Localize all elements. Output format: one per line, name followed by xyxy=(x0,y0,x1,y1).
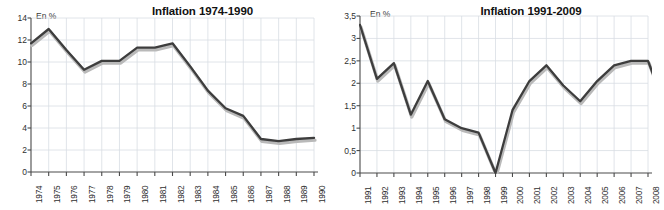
x-tick-label: 1993 xyxy=(398,187,407,204)
x-tick-label: 2005 xyxy=(601,187,610,204)
x-tick-label: 1991 xyxy=(364,187,373,204)
chart-canvas-left xyxy=(31,18,320,182)
x-tick-label: 1996 xyxy=(449,187,458,204)
x-tick-label: 2003 xyxy=(567,187,576,204)
x-tick-label: 1982 xyxy=(177,186,186,203)
x-tick-label: 1987 xyxy=(265,186,274,203)
x-tick-label: 2006 xyxy=(618,187,627,204)
x-tick-label: 1977 xyxy=(88,186,97,203)
data-line-shadow-left xyxy=(32,31,315,143)
x-tick-label: 2001 xyxy=(533,187,542,204)
gridlines-vertical xyxy=(49,18,314,172)
x-tick-label: 1984 xyxy=(212,186,221,203)
x-tick-label: 1995 xyxy=(432,187,441,204)
y-tick-label: 6 xyxy=(0,101,27,111)
y-tick-label: 14 xyxy=(0,13,27,23)
chart-canvas-right xyxy=(360,16,654,183)
y-tick-label: 0 xyxy=(325,168,356,178)
x-tick-label: 2004 xyxy=(584,187,593,204)
x-tick-label: 1686 xyxy=(247,186,256,203)
x-tick-label: 1974 xyxy=(35,186,44,203)
y-tick-label: 2 xyxy=(325,78,356,88)
y-tick-label: 12 xyxy=(0,35,27,45)
x-tick-label: 1997 xyxy=(466,187,475,204)
y-tick-label: 3 xyxy=(325,33,356,43)
chart-panel-inflation-1974-1990: Inflation 1974-1990 En % 02468101214 197… xyxy=(0,0,325,210)
x-tick-label: 1975 xyxy=(53,186,62,203)
gridlines-horizontal xyxy=(360,16,648,151)
y-tick-label: 10 xyxy=(0,57,27,67)
y-tick-label: 4 xyxy=(0,123,27,133)
y-tick-label: 1,5 xyxy=(325,101,356,111)
x-tick-label: 1992 xyxy=(381,187,390,204)
plot-area-left xyxy=(31,18,314,172)
x-tick-label: 1976 xyxy=(70,186,79,203)
y-tick-label: 8 xyxy=(0,79,27,89)
x-tick-label: 2002 xyxy=(550,187,559,204)
gridlines-vertical xyxy=(377,16,648,173)
y-tick-label: 2,5 xyxy=(325,56,356,66)
x-tick-label: 1985 xyxy=(230,186,239,203)
x-tick-label: 1980 xyxy=(141,186,150,203)
x-tick-label: 1989 xyxy=(300,186,309,203)
x-tick-label: 1979 xyxy=(123,186,132,203)
x-tick-label: 2007 xyxy=(635,187,644,204)
y-tick-label: 0,5 xyxy=(325,146,356,156)
x-tick-label: 1978 xyxy=(106,186,115,203)
x-tick-label: 1988 xyxy=(283,186,292,203)
x-tick-label: 1981 xyxy=(159,186,168,203)
x-tick-label: 1983 xyxy=(194,186,203,203)
x-tick-marks xyxy=(360,173,648,177)
y-tick-label: 3,5 xyxy=(325,11,356,21)
x-tick-label: 1999 xyxy=(500,187,509,204)
x-tick-label: 2000 xyxy=(516,187,525,204)
y-tick-label: 2 xyxy=(0,145,27,155)
x-tick-label: 1998 xyxy=(483,187,492,204)
plot-area-right xyxy=(360,16,648,173)
x-tick-marks xyxy=(31,172,314,176)
x-tick-label: 2008 xyxy=(652,187,661,204)
x-tick-label: 1994 xyxy=(415,187,424,204)
y-tick-label: 0 xyxy=(0,167,27,177)
axis-lines xyxy=(31,18,318,172)
y-tick-label: 1 xyxy=(325,123,356,133)
chart-panel-inflation-1991-2009: Inflation 1991-2009 En % 00,511,522,533,… xyxy=(325,0,649,210)
